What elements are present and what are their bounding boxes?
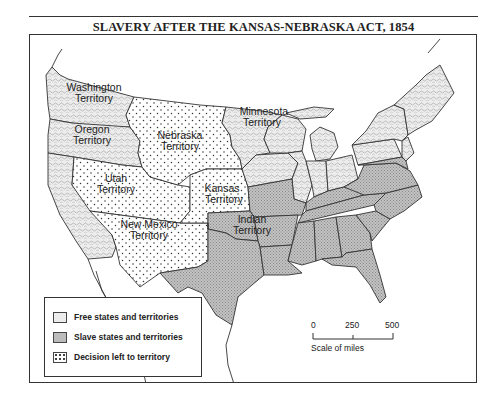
new-york xyxy=(352,105,408,145)
map-title: SLAVERY AFTER THE KANSAS-NEBRASKA ACT, 1… xyxy=(29,20,478,35)
legend: Free states and territories Slave states… xyxy=(44,297,202,377)
puget-sound xyxy=(52,49,62,67)
free-swatch-icon xyxy=(53,312,67,323)
label-kansas: KansasTerritory xyxy=(204,182,243,205)
label-nebraska: NebraskaTerritory xyxy=(158,129,203,152)
map-frame: WashingtonTerritory OregonTerritory Nebr… xyxy=(29,34,477,383)
mexico-gulf-coast xyxy=(226,325,234,383)
legend-item-decision: Decision left to territory xyxy=(53,350,170,364)
title-rule xyxy=(29,16,478,17)
michigan-upper xyxy=(286,107,334,119)
decision-swatch-icon xyxy=(53,352,67,363)
scale-line-icon xyxy=(311,320,411,344)
legend-item-slave: Slave states and territories xyxy=(53,330,183,344)
slave-swatch-icon xyxy=(53,332,67,343)
new-jersey xyxy=(402,137,414,161)
scale-bar: 0 250 500 Scale of miles xyxy=(311,320,431,360)
label-indian: IndianTerritory xyxy=(233,213,272,236)
legend-item-free: Free states and territories xyxy=(53,310,178,324)
michigan xyxy=(310,127,338,161)
ne-border xyxy=(428,39,440,53)
label-oregon: OregonTerritory xyxy=(73,123,112,146)
